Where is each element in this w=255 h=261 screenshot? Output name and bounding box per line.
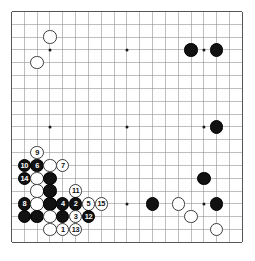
stone-black[interactable]: [43, 197, 56, 210]
stone-move-number: 10: [21, 162, 29, 169]
stone-move-2-black[interactable]: 2: [69, 197, 82, 210]
stone-white[interactable]: [30, 172, 43, 185]
star-point: [48, 125, 51, 128]
stone-move-14-black[interactable]: 14: [18, 172, 31, 185]
stone-move-number: 6: [35, 162, 39, 169]
stone-move-number: 11: [72, 188, 79, 195]
stone-move-number: 13: [72, 226, 80, 233]
stone-black[interactable]: [197, 172, 210, 185]
stone-move-8-black[interactable]: 8: [18, 197, 31, 210]
stone-black[interactable]: [43, 184, 56, 197]
star-point: [202, 125, 205, 128]
stone-move-10-black[interactable]: 10: [18, 159, 31, 172]
stone-move-number: 2: [74, 200, 78, 207]
star-point: [202, 202, 205, 205]
stone-move-number: 14: [21, 175, 29, 182]
stone-black[interactable]: [210, 120, 223, 133]
stone-move-number: 1: [61, 226, 65, 233]
stone-white[interactable]: [43, 210, 56, 223]
stone-move-number: 4: [61, 200, 65, 207]
stone-white[interactable]: [172, 197, 185, 210]
stone-move-15-white[interactable]: 15: [95, 197, 108, 210]
stone-move-number: 15: [97, 200, 105, 207]
star-point: [48, 48, 51, 51]
stone-move-9-white[interactable]: 9: [30, 146, 43, 159]
stone-white[interactable]: [43, 30, 56, 43]
stone-white[interactable]: [43, 223, 56, 236]
stone-move-number: 8: [22, 200, 26, 207]
stone-move-5-white[interactable]: 5: [82, 197, 95, 210]
star-point: [125, 48, 128, 51]
stone-black[interactable]: [146, 197, 159, 210]
stone-move-4-black[interactable]: 4: [56, 197, 69, 210]
stone-white[interactable]: [30, 184, 43, 197]
stone-black[interactable]: [184, 43, 197, 56]
stone-move-number: 3: [74, 213, 78, 220]
stone-move-number: 7: [61, 162, 65, 169]
stone-white[interactable]: [30, 197, 43, 210]
stone-move-number: 12: [85, 213, 93, 220]
stone-move-11-white[interactable]: 11: [69, 184, 82, 197]
stone-black[interactable]: [210, 197, 223, 210]
stone-move-number: 9: [35, 149, 39, 156]
stone-move-number: 5: [87, 200, 91, 207]
star-point: [125, 202, 128, 205]
stone-move-6-black[interactable]: 6: [30, 159, 43, 172]
star-point: [125, 125, 128, 128]
star-point: [202, 48, 205, 51]
stone-black[interactable]: [43, 172, 56, 185]
go-board-diagram: 910671411842515312113: [0, 0, 255, 261]
stone-white[interactable]: [43, 159, 56, 172]
stone-black[interactable]: [210, 43, 223, 56]
